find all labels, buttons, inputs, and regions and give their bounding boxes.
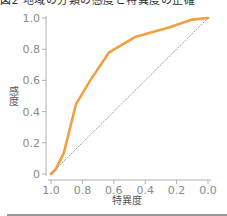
- y-tick-label: 0.4: [23, 106, 41, 119]
- y-tick-label: 0: [33, 168, 40, 181]
- x-tick-label: 0.8: [74, 184, 92, 197]
- y-axis-title: 感度: [8, 85, 19, 107]
- y-tick-label: 0.8: [23, 43, 41, 56]
- y-axis: 00.20.40.60.81.0: [23, 12, 47, 181]
- x-tick-label: 0.0: [199, 184, 217, 197]
- y-tick-label: 0.2: [23, 137, 41, 150]
- x-tick-label: 1.0: [42, 184, 60, 197]
- y-tick-label: 0.6: [23, 74, 41, 87]
- x-tick-label: 0.2: [168, 184, 186, 197]
- y-tick-label: 1.0: [23, 12, 41, 25]
- roc-chart: 00.20.40.60.81.0 1.00.80.60.40.20.0 感度 特…: [0, 0, 227, 216]
- x-axis-title: 特異度: [112, 194, 142, 206]
- plot-series: [51, 18, 208, 174]
- divider: [7, 214, 227, 216]
